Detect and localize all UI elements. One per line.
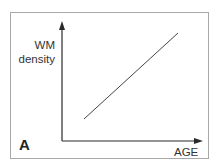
y-axis-arrow-icon	[59, 21, 65, 30]
x-axis-arrow-icon	[194, 138, 203, 144]
panel-label: A	[19, 136, 30, 153]
chart-canvas	[0, 0, 219, 167]
y-axis	[59, 21, 65, 141]
y-axis-label: WM density	[19, 38, 55, 66]
x-axis-label: AGE	[174, 146, 198, 158]
y-axis-label-line2: density	[19, 52, 55, 66]
trend-line	[84, 33, 178, 119]
y-axis-label-line1: WM	[19, 38, 55, 52]
x-axis	[62, 138, 203, 144]
